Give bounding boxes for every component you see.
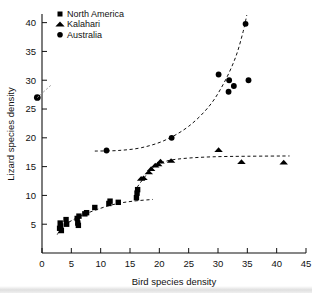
y-tick-label: 10 — [25, 190, 36, 201]
data-point-triangle — [214, 147, 223, 152]
series-australia — [104, 21, 252, 154]
y-axis-ticks: 510152025303540 — [25, 17, 47, 230]
x-tick-label: 45 — [301, 258, 312, 269]
data-point-square — [135, 187, 140, 192]
x-tick-label: 35 — [242, 258, 253, 269]
data-point-triangle — [237, 159, 246, 164]
figure-container: 510152025303540 051015202530354045 North… — [0, 0, 312, 293]
data-point-triangle — [279, 160, 288, 165]
data-point-square — [64, 222, 69, 227]
data-point-square — [116, 200, 121, 205]
legend-item-kalahari: Kalahari — [55, 19, 100, 29]
x-tick-label: 30 — [213, 258, 224, 269]
y-tick-label: 35 — [25, 46, 36, 57]
circle-icon — [57, 32, 63, 38]
y-tick-label: 20 — [25, 132, 36, 143]
square-icon — [58, 12, 63, 17]
data-point-square — [76, 213, 81, 218]
x-tick-label: 0 — [39, 258, 44, 269]
y-tick-label: 30 — [25, 75, 36, 86]
data-point-circle — [231, 83, 237, 89]
data-point-square — [59, 228, 64, 233]
data-point-circle — [226, 77, 232, 83]
annotations-group — [34, 85, 51, 101]
y-tick-label: 15 — [25, 161, 36, 172]
data-point-square — [92, 205, 97, 210]
data-point-square — [134, 195, 139, 200]
fit-curves-group — [57, 15, 289, 234]
y-tick-label: 40 — [25, 17, 36, 28]
legend: North AmericaKalahariAustralia — [55, 9, 124, 40]
data-point-circle — [243, 21, 249, 27]
x-tick-label: 10 — [95, 258, 106, 269]
x-tick-label: 5 — [69, 258, 74, 269]
y-tick-label: 25 — [25, 103, 36, 114]
page-edge-artifact — [0, 286, 312, 293]
series-north-america — [57, 187, 140, 233]
data-point-circle — [216, 72, 222, 78]
legend-label: Kalahari — [67, 19, 100, 29]
data-point-circle — [246, 77, 252, 83]
x-tick-label: 25 — [183, 258, 194, 269]
x-axis-ticks: 051015202530354045 — [39, 248, 311, 269]
legend-label: North America — [67, 9, 124, 19]
x-tick-label: 15 — [125, 258, 136, 269]
data-point-square — [58, 223, 63, 228]
data-points-group — [57, 21, 288, 233]
y-axis-title: Lizard species density — [5, 87, 16, 181]
off-axis-marker — [34, 94, 41, 101]
data-point-circle — [104, 148, 110, 154]
fit-curve-australia — [95, 15, 247, 151]
data-point-circle — [169, 135, 175, 141]
legend-label: Australia — [67, 30, 102, 40]
data-point-square — [76, 223, 81, 228]
y-tick-label: 5 — [31, 219, 36, 230]
off-axis-tail — [37, 85, 51, 98]
fit-curve-north-america — [57, 199, 153, 234]
data-point-square — [63, 217, 68, 222]
data-point-square — [107, 198, 112, 203]
scatter-plot: 510152025303540 051015202530354045 North… — [0, 0, 312, 293]
legend-item-north-america: North America — [58, 9, 125, 19]
triangle-icon — [55, 21, 64, 26]
data-point-square — [84, 210, 89, 215]
x-tick-label: 40 — [271, 258, 282, 269]
series-kalahari — [137, 147, 288, 180]
x-tick-label: 20 — [154, 258, 165, 269]
data-point-triangle — [156, 159, 165, 164]
legend-item-australia: Australia — [57, 30, 102, 40]
data-point-circle — [226, 89, 232, 95]
